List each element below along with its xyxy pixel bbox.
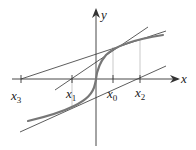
x-axis-label: x: [180, 71, 187, 86]
newton-method-diagram: x y x3 x1 x0 x2: [0, 0, 196, 150]
label-x2: x2: [134, 85, 145, 102]
y-axis-label: y: [99, 7, 107, 22]
label-x1: x1: [65, 86, 76, 103]
function-curve: [28, 35, 163, 121]
label-x3: x3: [10, 88, 22, 105]
